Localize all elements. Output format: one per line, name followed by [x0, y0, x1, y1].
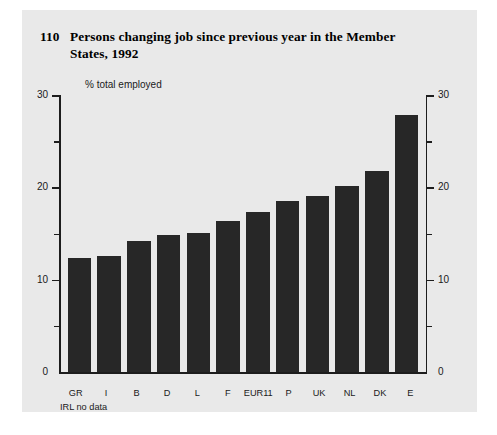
- x-label-eur11: EUR11: [243, 388, 273, 398]
- y-label-right-30: 30: [438, 90, 462, 100]
- x-label-b: B: [121, 388, 151, 398]
- x-label-e: E: [395, 388, 425, 398]
- y-tick-left-10: [52, 280, 61, 282]
- bar-slot: [362, 95, 392, 372]
- bar-i: [97, 256, 120, 372]
- bar-slot: [65, 95, 95, 372]
- x-axis-baseline: [59, 372, 427, 374]
- bar-slot: [184, 95, 214, 372]
- bar-slot: [154, 95, 184, 372]
- y-axis-caption: % total employed: [85, 79, 162, 90]
- x-label-uk: UK: [304, 388, 334, 398]
- bar-slot: [94, 95, 124, 372]
- figure-title: 110Persons changing job since previous y…: [40, 28, 450, 62]
- bar-slot: [273, 95, 303, 372]
- x-label-d: D: [152, 388, 182, 398]
- y-label-left-0: 0: [24, 367, 48, 377]
- x-label-dk: DK: [365, 388, 395, 398]
- y-label-left-30: 30: [24, 90, 48, 100]
- figure-title-text: Persons changing job since previous year…: [70, 28, 422, 62]
- bar-l: [187, 233, 210, 372]
- y-label-right-20: 20: [438, 182, 462, 192]
- y-label-left-20: 20: [24, 182, 48, 192]
- plot-area: % total employed 30 20 10 0 30 20 10 0: [59, 95, 427, 372]
- y-tick-right-10: [426, 280, 435, 282]
- x-label-f: F: [213, 388, 243, 398]
- y-tick-left-30: [52, 95, 61, 97]
- bar-eur11: [246, 212, 269, 372]
- bar-slot: [213, 95, 243, 372]
- bar-uk: [306, 196, 329, 372]
- y-tick-right-15: [426, 234, 433, 236]
- bar-dk: [365, 171, 388, 372]
- bar-series: [61, 95, 426, 372]
- bar-slot: [392, 95, 422, 372]
- x-label-p: P: [273, 388, 303, 398]
- y-tick-right-25: [426, 141, 433, 143]
- bar-slot: [124, 95, 154, 372]
- y-tick-right-20: [426, 187, 435, 189]
- bar-gr: [68, 258, 91, 372]
- x-label-nl: NL: [334, 388, 364, 398]
- bar-e: [395, 115, 418, 372]
- figure-number: 110: [40, 28, 70, 45]
- bar-b: [127, 241, 150, 372]
- y-label-left-10: 10: [24, 275, 48, 285]
- bar-slot: [332, 95, 362, 372]
- bar-p: [276, 201, 299, 372]
- x-label-gr: GR: [61, 388, 91, 398]
- x-label-i: I: [91, 388, 121, 398]
- y-tick-left-20: [52, 187, 61, 189]
- chart-note: IRL no data: [60, 402, 107, 412]
- bar-f: [216, 221, 239, 372]
- x-axis-labels: GRIBDLFEUR11PUKNLDKE: [61, 388, 426, 398]
- bar-d: [157, 235, 180, 372]
- x-label-l: L: [182, 388, 212, 398]
- bar-slot: [243, 95, 273, 372]
- bar-nl: [335, 186, 358, 373]
- y-label-right-10: 10: [438, 275, 462, 285]
- y-tick-right-30: [426, 95, 435, 97]
- y-tick-right-5: [426, 326, 433, 328]
- figure-panel: 110Persons changing job since previous y…: [22, 10, 477, 412]
- y-label-right-0: 0: [438, 367, 462, 377]
- bar-slot: [303, 95, 333, 372]
